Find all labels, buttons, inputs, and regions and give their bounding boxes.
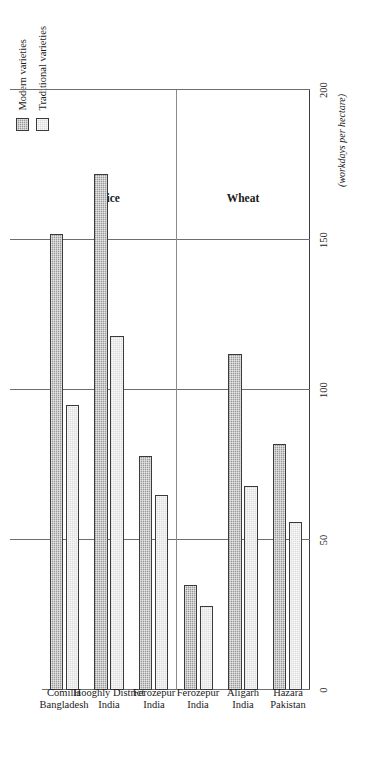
category-place-3: Ferozepur (177, 687, 220, 699)
legend-item-modern: Modern varieties (16, 26, 29, 131)
tick-label-150: 150 (318, 232, 329, 248)
category-label-4: AligarhIndia (227, 687, 259, 710)
bar-modern-3 (184, 585, 197, 690)
tick-label-0: 0 (318, 687, 329, 692)
tick-label-50: 50 (318, 535, 329, 546)
bar-modern-2 (139, 456, 152, 690)
bar-modern-4 (228, 354, 241, 690)
value-axis-baseline (309, 90, 310, 690)
category-label-3: FerozepurIndia (177, 687, 220, 710)
category-country-3: India (177, 698, 220, 710)
bar-traditional-2 (155, 495, 168, 690)
category-country-4: India (227, 698, 259, 710)
gridline-200 (10, 89, 310, 90)
bar-modern-1 (94, 174, 107, 690)
bar-traditional-1 (110, 336, 123, 690)
legend-swatch-modern (16, 118, 29, 131)
category-country-5: Pakistan (270, 698, 306, 710)
category-country-2: India (132, 698, 175, 710)
category-label-5: HazaraPakistan (270, 687, 306, 710)
bar-traditional-0 (66, 405, 79, 690)
plot-area: 050100150200ComillaBangladeshHooghly Dis… (42, 90, 310, 690)
bar-traditional-3 (200, 606, 213, 690)
bar-modern-0 (50, 234, 63, 690)
tick-label-100: 100 (318, 382, 329, 398)
bar-modern-5 (273, 444, 286, 690)
chart-figure: (workdays per hectare) Modern varieties … (0, 0, 376, 760)
category-place-5: Hazara (270, 687, 306, 699)
category-place-2: Ferozepur (132, 687, 175, 699)
section-divider (176, 90, 177, 690)
bar-traditional-4 (244, 486, 257, 690)
bar-traditional-5 (289, 522, 302, 690)
tick-label-200: 200 (318, 82, 329, 98)
category-place-4: Aligarh (227, 687, 259, 699)
legend-label-modern: Modern varieties (17, 39, 28, 110)
axis-units-label: (workdays per hectare) (336, 94, 347, 187)
category-label-2: FerozepurIndia (132, 687, 175, 710)
